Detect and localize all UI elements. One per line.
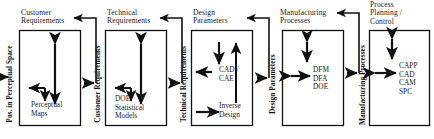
vlabel-manufacturing-processes: Manufacturing Processes — [312, 73, 414, 83]
vlabel-pos-in-perceptual-space: Pos. in Perceptual Space — [0, 72, 55, 82]
vlabel-text-customer-requirements: Customer Requirements — [94, 39, 102, 129]
process-flow-diagram: Customer Requirements Technical Requirem… — [0, 0, 434, 139]
box-content-inverse-design: Inverse Design — [219, 102, 255, 119]
stage-title-technical-requirements: Technical Requirements — [107, 9, 169, 26]
vlabel-text-technical-requirements: Technical Requirements — [180, 39, 188, 129]
vlabel-technical-requirements: Technical Requirements — [139, 72, 229, 82]
vlabel-design-parameters: Design Parameters — [232, 72, 314, 82]
vlabel-customer-requirements: Customer Requirements — [53, 72, 143, 82]
stage-title-customer-requirements: Customer Requirements — [21, 9, 83, 26]
box-content-doe-statistical-models: DOE Statistical Models — [115, 95, 167, 121]
vlabel-text-pos-in-perceptual-space: Pos. in Perceptual Space — [6, 39, 14, 129]
stage-title-design-parameters: Design Parameters — [193, 9, 255, 26]
box-content-perceptual-maps: Perceptual Maps — [31, 101, 81, 118]
stage-title-process-planning-control: Process Planning / Control — [370, 1, 434, 26]
vlabel-text-manufacturing-processes: Manufacturing Processes — [359, 34, 367, 136]
vlabel-text-design-parameters: Design Parameters — [269, 43, 277, 125]
stage-title-manufacturing-processes: Manufacturing Processes — [280, 9, 352, 26]
